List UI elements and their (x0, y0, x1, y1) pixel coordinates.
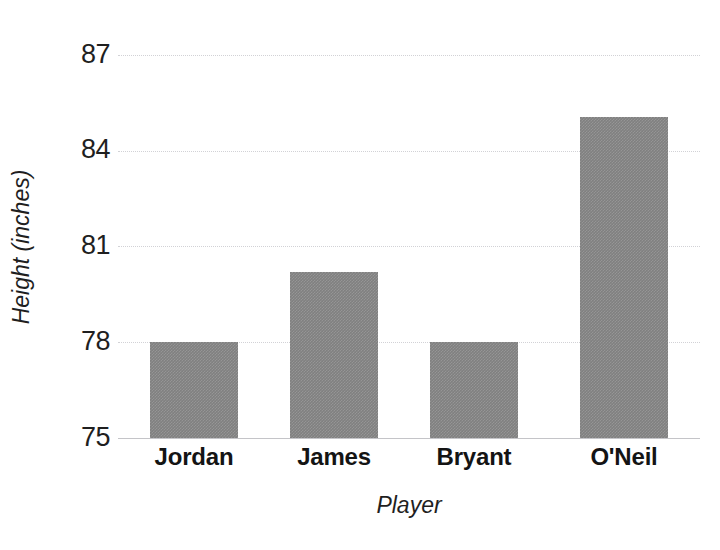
chart-title-clipped (0, 0, 720, 4)
bar-series (118, 55, 700, 438)
y-tick-label-87: 87 (50, 39, 110, 70)
y-tick-label-78: 78 (50, 326, 110, 357)
bar-oneil (580, 117, 668, 438)
y-axis-title: Height (inches) (8, 169, 35, 324)
y-axis-tick-labels: 87 84 81 78 75 (38, 55, 110, 438)
x-category-label-james: James (274, 443, 394, 471)
gridline-baseline-75 (118, 438, 700, 439)
bar-jordan (150, 342, 238, 438)
y-tick-label-81: 81 (50, 230, 110, 261)
x-category-label-bryant: Bryant (414, 443, 534, 471)
y-axis-title-container: Height (inches) (0, 55, 42, 438)
y-tick-label-84: 84 (50, 134, 110, 165)
x-category-label-jordan: Jordan (134, 443, 254, 471)
bar-bryant (430, 342, 518, 438)
y-tick-label-75: 75 (50, 422, 110, 453)
x-category-label-oneil: O'Neil (564, 443, 684, 471)
x-axis-title: Player (118, 492, 700, 519)
bar-james (290, 272, 378, 438)
bar-chart: Height (inches) 87 84 81 78 75 Jordan Ja… (0, 0, 720, 550)
x-axis-category-labels: Jordan James Bryant O'Neil (118, 443, 700, 483)
